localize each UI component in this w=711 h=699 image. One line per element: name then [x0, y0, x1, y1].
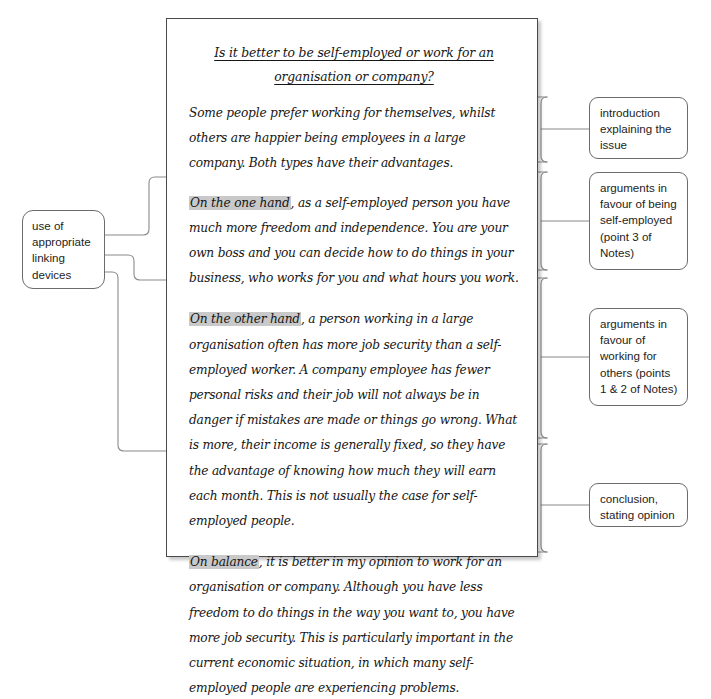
essay-title: Is it better to be self-employed or work… — [191, 41, 517, 89]
annotation-self-employed-label: arguments in favour of being self-employ… — [600, 181, 677, 259]
paragraph-conclusion: On balance, it is better in my opinion t… — [189, 550, 523, 699]
annotation-linking-devices[interactable]: use of appropriate linking devices — [22, 210, 105, 289]
model-answer-content: Is it better to be self-employed or work… — [189, 31, 523, 699]
paragraph-body-two-text: , a person working in a large organisati… — [189, 312, 517, 528]
annotation-conclusion[interactable]: conclusion, stating opinion — [589, 483, 688, 527]
linker-on-the-other-hand: On the other hand — [189, 312, 301, 326]
annotation-introduction[interactable]: introduction explaining the issue — [589, 97, 688, 159]
bracket-others — [541, 278, 547, 438]
annotation-self-employed[interactable]: arguments in favour of being self-employ… — [589, 172, 688, 270]
annotation-working-for-others-label: arguments in favour of working for other… — [600, 317, 677, 395]
paragraph-body-one: On the one hand, as a self-employed pers… — [189, 191, 523, 292]
annotation-conclusion-label: conclusion, stating opinion — [600, 492, 675, 521]
paragraph-body-two: On the other hand, a person working in a… — [189, 307, 523, 534]
bracket-conclusion — [541, 444, 547, 552]
annotation-working-for-others[interactable]: arguments in favour of working for other… — [589, 308, 688, 406]
bracket-self-employed — [541, 172, 547, 270]
linker-on-the-one-hand: On the one hand — [189, 196, 291, 210]
model-answer-box: Is it better to be self-employed or work… — [166, 18, 538, 557]
linker-on-balance: On balance — [189, 555, 259, 569]
bracket-introduction — [541, 97, 547, 162]
paragraph-introduction: Some people prefer working for themselve… — [189, 101, 523, 177]
paragraph-conclusion-text: , it is better in my opinion to work for… — [189, 555, 515, 695]
paragraph-introduction-text: Some people prefer working for themselve… — [189, 106, 495, 170]
annotation-linking-devices-label: use of appropriate linking devices — [32, 219, 91, 281]
annotation-introduction-label: introduction explaining the issue — [600, 106, 672, 151]
